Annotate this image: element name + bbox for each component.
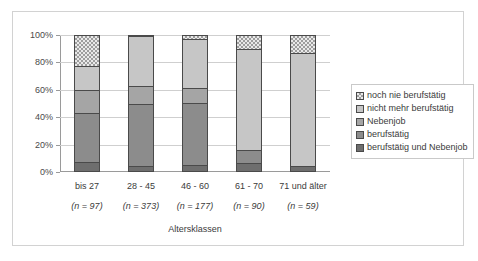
x-axis-sample-size-label: (n = 59) (287, 201, 318, 211)
chart-legend: noch nie berufstätignicht mehr berufstät… (351, 84, 474, 159)
bar-segment[interactable] (237, 151, 261, 163)
x-axis-sample-size-label: (n = 373) (123, 201, 159, 211)
plot-area: 0%20%40%60%80%100% (60, 35, 330, 172)
bar-segment[interactable] (75, 114, 99, 163)
x-axis-sample-size-label: (n = 90) (233, 201, 264, 211)
x-axis-category-label: 61 - 70 (235, 181, 263, 191)
y-axis-tick (56, 62, 60, 63)
stacked-bar[interactable] (128, 35, 154, 172)
y-axis-tick (56, 172, 60, 173)
legend-swatch-icon (356, 105, 364, 113)
x-axis-category-label: 28 - 45 (127, 181, 155, 191)
stacked-bar[interactable] (74, 35, 100, 172)
bar-segment[interactable] (183, 166, 207, 171)
bar-segment[interactable] (183, 89, 207, 104)
bar-segment[interactable] (75, 67, 99, 91)
y-axis-tick-label: 40% (35, 112, 53, 122)
bar-segment[interactable] (237, 50, 261, 151)
bar-segment[interactable] (129, 37, 153, 87)
y-axis-tick (56, 145, 60, 146)
stacked-bar[interactable] (290, 35, 316, 172)
legend-item-label: nicht mehr berufstätig (367, 104, 454, 113)
y-axis-tick-label: 60% (35, 85, 53, 95)
x-axis-category-label: 46 - 60 (181, 181, 209, 191)
legend-item[interactable]: berufstätig und Nebenjob (356, 141, 468, 154)
legend-swatch-icon (356, 144, 364, 152)
y-axis-tick-label: 20% (35, 140, 53, 150)
chart-figure: 0%20%40%60%80%100% bis 2728 - 4546 - 606… (12, 11, 464, 246)
bar-segment[interactable] (237, 164, 261, 171)
legend-item[interactable]: noch nie berufstätig (356, 89, 468, 102)
legend-item[interactable]: Nebenjob (356, 115, 468, 128)
legend-swatch-icon (356, 92, 364, 100)
bar-segment[interactable] (75, 91, 99, 114)
bar-segment[interactable] (129, 87, 153, 105)
legend-item-label: berufstätig (367, 130, 409, 139)
bar-segment[interactable] (291, 36, 315, 54)
bar-segment[interactable] (237, 36, 261, 50)
stacked-bar[interactable] (182, 35, 208, 172)
legend-item[interactable]: nicht mehr berufstätig (356, 102, 468, 115)
bar-segment[interactable] (129, 105, 153, 167)
y-axis-tick (56, 35, 60, 36)
bar-segment[interactable] (183, 104, 207, 166)
bar-segment[interactable] (291, 54, 315, 167)
bar-segment[interactable] (75, 163, 99, 171)
stacked-bar[interactable] (236, 35, 262, 172)
legend-swatch-icon (356, 131, 364, 139)
y-axis-tick (56, 90, 60, 91)
y-axis-tick-label: 80% (35, 57, 53, 67)
bar-segment[interactable] (129, 167, 153, 171)
y-axis-tick-label: 0% (40, 167, 53, 177)
legend-item[interactable]: berufstätig (356, 128, 468, 141)
bar-segment[interactable] (291, 167, 315, 171)
legend-item-label: berufstätig und Nebenjob (367, 143, 468, 152)
x-axis-category-label: 71 und älter (279, 181, 327, 191)
legend-item-label: Nebenjob (367, 117, 406, 126)
x-axis-sample-size-label: (n = 177) (177, 201, 213, 211)
bar-segment[interactable] (183, 40, 207, 89)
y-axis-tick-label: 100% (30, 30, 53, 40)
legend-swatch-icon (356, 118, 364, 126)
legend-item-label: noch nie berufstätig (367, 91, 446, 100)
y-axis-tick (56, 117, 60, 118)
x-axis-sample-size-label: (n = 97) (71, 201, 102, 211)
bar-segment[interactable] (75, 36, 99, 67)
x-axis-title: Altersklassen (168, 224, 222, 234)
x-axis-category-label: bis 27 (75, 181, 99, 191)
